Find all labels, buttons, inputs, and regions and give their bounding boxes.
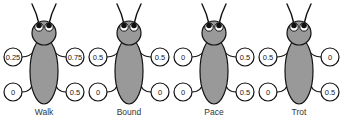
leg-phase-value: 0	[181, 88, 185, 97]
leg-phase-value: 0.5	[263, 53, 273, 62]
bug-body	[200, 38, 228, 104]
pupil-icon	[206, 23, 212, 29]
leg-phase-hind-left: 0	[89, 83, 107, 101]
leg-phase-front-left: 0.25	[4, 48, 22, 66]
leg-phase-front-left: 0.5	[89, 48, 107, 66]
leg-phase-front-left: 0.5	[259, 48, 277, 66]
leg-phase-value: 0.5	[70, 88, 80, 97]
pupil-icon	[121, 23, 127, 29]
bug-figure-bound: 0.50.500Bound	[89, 4, 169, 117]
antenna-right	[219, 4, 226, 24]
antenna-right	[304, 4, 311, 24]
leg-phase-front-right: 0.75	[66, 48, 84, 66]
leg-phase-value: 0.5	[325, 88, 335, 97]
bug-figure-trot: 0.5000.5Trot	[259, 4, 339, 117]
leg-phase-value: 0	[158, 88, 162, 97]
gait-diagram: 0.250.7500.5Walk0.50.500Bound00.500.5Pac…	[0, 0, 347, 122]
leg-phase-hind-right: 0.5	[321, 83, 339, 101]
leg-phase-hind-right: 0.5	[236, 83, 254, 101]
gait-label: Pace	[204, 107, 224, 117]
leg-phase-value: 0	[181, 53, 185, 62]
leg-phase-hind-left: 0	[4, 83, 22, 101]
antenna-left	[287, 4, 294, 24]
leg-phase-hind-right: 0.5	[66, 83, 84, 101]
pupil-icon	[46, 23, 52, 29]
leg-phase-front-right: 0.5	[236, 48, 254, 66]
leg-phase-value: 0.5	[240, 88, 250, 97]
leg-phase-front-right: 0	[321, 48, 339, 66]
leg-phase-value: 0.5	[240, 53, 250, 62]
leg-phase-hind-left: 0	[259, 83, 277, 101]
pupil-icon	[131, 23, 137, 29]
pupil-icon	[216, 23, 222, 29]
gait-label: Trot	[292, 107, 307, 117]
bug-body	[115, 38, 143, 104]
leg-phase-value: 0.5	[155, 53, 165, 62]
bug-body	[30, 38, 58, 104]
leg-phase-value: 0	[328, 53, 332, 62]
antenna-left	[202, 4, 209, 24]
leg-phase-value: 0.5	[93, 53, 103, 62]
bug-figure-pace: 00.500.5Pace	[174, 4, 254, 117]
antenna-right	[134, 4, 141, 24]
leg-phase-hind-right: 0	[151, 83, 169, 101]
leg-phase-front-right: 0.5	[151, 48, 169, 66]
leg-phase-front-left: 0	[174, 48, 192, 66]
pupil-icon	[36, 23, 42, 29]
antenna-right	[49, 4, 56, 24]
leg-phase-value: 0.25	[6, 53, 21, 62]
bug-figure-walk: 0.250.7500.5Walk	[4, 4, 84, 117]
gait-label: Walk	[35, 107, 54, 117]
antenna-left	[117, 4, 124, 24]
pupil-icon	[301, 23, 307, 29]
leg-phase-value: 0	[266, 88, 270, 97]
gait-label: Bound	[117, 107, 142, 117]
leg-phase-value: 0	[96, 88, 100, 97]
pupil-icon	[291, 23, 297, 29]
bug-body	[285, 38, 313, 104]
leg-phase-value: 0.75	[68, 53, 83, 62]
leg-phase-value: 0	[11, 88, 15, 97]
leg-phase-hind-left: 0	[174, 83, 192, 101]
antenna-left	[32, 4, 39, 24]
